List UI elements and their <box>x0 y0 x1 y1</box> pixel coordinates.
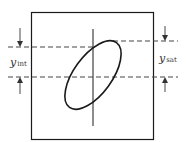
label-y-int: yint <box>9 56 27 69</box>
label-y-sat: ysat <box>158 52 177 65</box>
diagram-canvas: yint ysat <box>0 0 186 142</box>
